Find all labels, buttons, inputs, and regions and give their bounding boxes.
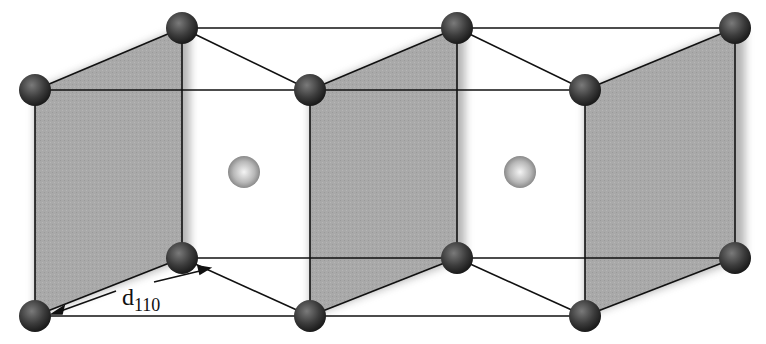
plane-1 — [35, 28, 182, 316]
lattice-svg — [0, 0, 766, 344]
center-atom-1 — [228, 156, 260, 188]
d110-label: d110 — [122, 284, 160, 316]
plane-2 — [310, 28, 457, 316]
miller-index: 110 — [134, 295, 160, 315]
plane-3 — [585, 28, 735, 316]
bcc-lattice-diagram: d110 — [0, 0, 766, 344]
center-atom-2 — [504, 156, 536, 188]
d-symbol: d — [122, 284, 134, 310]
